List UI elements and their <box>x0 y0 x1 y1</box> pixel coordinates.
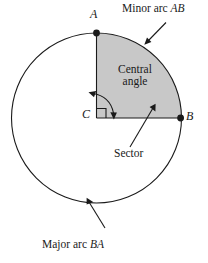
callout-major-arc-text: Major arc <box>42 238 90 250</box>
callout-central-angle: Central angle <box>108 63 162 88</box>
leader-line-minor-arc <box>148 23 166 42</box>
leader-line-major-arc <box>89 202 105 228</box>
callout-minor-arc: Minor arc AB <box>122 2 185 14</box>
point-label-a: A <box>90 8 97 21</box>
circle-sector-diagram: A B C Minor arc AB Central angle Sector … <box>0 0 208 263</box>
point-label-c: C <box>82 108 90 121</box>
point-marker-a <box>93 30 100 37</box>
callout-minor-arc-text: Minor arc <box>122 2 171 14</box>
callout-central-angle-line2: angle <box>108 75 162 87</box>
callout-central-angle-line1: Central <box>108 63 162 75</box>
callout-major-arc-italic: BA <box>90 238 104 250</box>
point-label-b: B <box>186 110 193 123</box>
callout-minor-arc-italic: AB <box>171 2 185 14</box>
callout-sector: Sector <box>114 147 143 159</box>
diagram-canvas <box>0 0 208 263</box>
callout-major-arc: Major arc BA <box>42 238 104 250</box>
point-marker-b <box>177 115 184 122</box>
central-angle-arrowhead-left-icon <box>89 91 97 97</box>
